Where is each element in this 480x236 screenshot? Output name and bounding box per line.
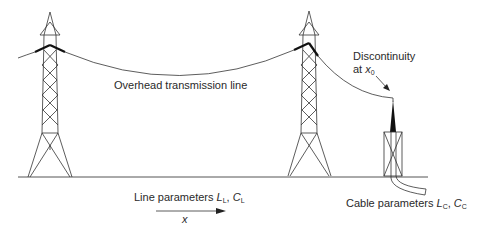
- line-C-sub: L: [241, 197, 245, 204]
- underground-cable: [391, 132, 426, 195]
- line-params-text: Line parameters: [134, 191, 217, 203]
- discontinuity-var: x: [365, 63, 371, 75]
- discontinuity-label: Discontinuity at x0: [353, 50, 415, 77]
- line-parameters-label: Line parameters LL, CL: [134, 191, 245, 205]
- direction-arrow: [156, 208, 226, 214]
- direction-var-label: x: [182, 213, 188, 226]
- tower-right-insulators: [294, 43, 318, 56]
- cable-C: C: [454, 197, 462, 209]
- cable-L-sub: C: [443, 203, 448, 210]
- discontinuity-at-text: at: [353, 63, 365, 75]
- discontinuity-sub: 0: [371, 69, 375, 76]
- cable-params-text: Cable parameters: [346, 197, 437, 209]
- cable-C-sub: C: [462, 203, 467, 210]
- line-C: C: [233, 191, 241, 203]
- tower-left-insulators: [35, 45, 65, 52]
- discontinuity-label-line2: at x0: [353, 63, 415, 77]
- overhead-line-label: Overhead transmission line: [114, 79, 247, 92]
- cable-termination: [384, 98, 402, 176]
- line-L-sub: L: [223, 197, 227, 204]
- discontinuity-label-line1: Discontinuity: [353, 50, 415, 63]
- tower-left: [28, 12, 72, 177]
- line-L: L: [217, 191, 223, 203]
- cable-L: L: [437, 197, 443, 209]
- cable-parameters-label: Cable parameters LC, CC: [346, 197, 467, 211]
- tower-right: [288, 11, 331, 176]
- discontinuity-arrow: [376, 76, 390, 91]
